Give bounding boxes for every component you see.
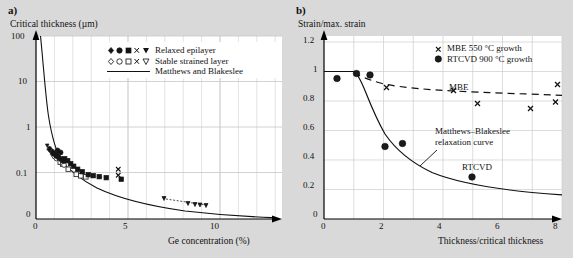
panel-b-legend-label-0: MBE 550 °C growth [447, 43, 522, 53]
panel-a-svg [0, 0, 286, 258]
panel-b: b) Strain/max. strain Thickness/critical… [286, 0, 572, 258]
figure-container: a) Critical thickness (µm) Ge concentrat… [0, 0, 573, 258]
panel-b-legend-label-1: RTCVD 900 °C growth [447, 54, 532, 64]
panel-a-legend-label-0: Relaxed epilayer [155, 45, 216, 55]
panel-a-filled-markers [46, 144, 209, 208]
panel-a-legend-row2-markers [108, 59, 131, 65]
panel-b-annotation-mbe: MBE [449, 82, 469, 93]
panel-a-legend-label-2: Matthews and Blakeslee [155, 66, 243, 76]
panel-b-annotation-mb-line1: Matthews–Blakeslee [435, 126, 510, 137]
panel-a: a) Critical thickness (µm) Ge concentrat… [0, 0, 286, 258]
panel-a-legend-label-1: Stable strained layer [155, 56, 228, 66]
panel-b-legend-circle-marker [435, 56, 441, 62]
panel-b-mbe-points [384, 82, 560, 111]
panel-b-svg [286, 0, 572, 258]
panel-b-annotation-leader-line [420, 150, 437, 166]
panel-b-annotation-mb-line2: relaxation curve [435, 137, 493, 148]
panel-b-annotation-rtcvd: RTCVD [462, 162, 492, 173]
panel-b-legend-x-marker [436, 47, 441, 52]
panel-a-legend-row1-markers [108, 48, 131, 54]
